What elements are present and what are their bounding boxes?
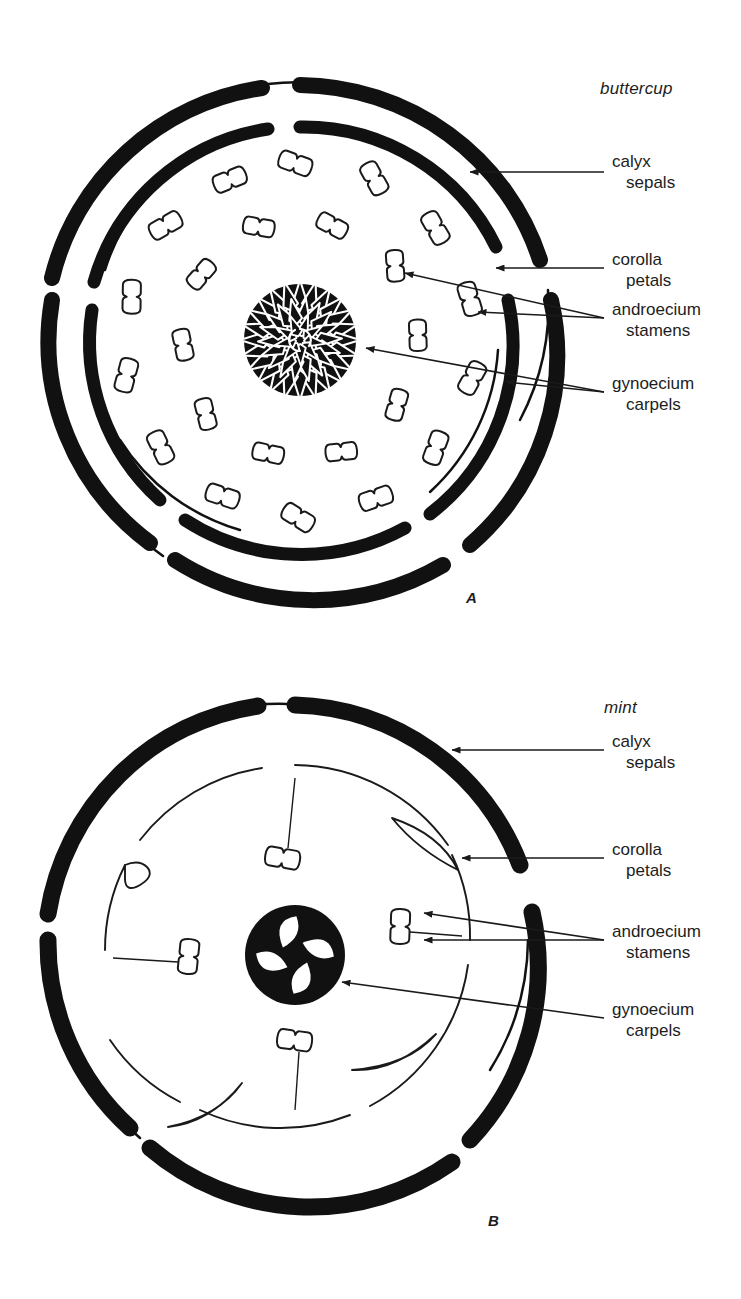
callout-term: androecium bbox=[612, 922, 701, 943]
leader-gynoecium-buttercup bbox=[366, 348, 604, 392]
leader-gynoecium-mint bbox=[342, 982, 604, 1018]
callout-term: androecium bbox=[612, 300, 701, 321]
callout-androecium-buttercup: androecium stamens bbox=[612, 300, 701, 341]
callout-term: corolla bbox=[612, 840, 671, 861]
callout-sub: carpels bbox=[612, 395, 694, 416]
gynoecium-buttercup bbox=[240, 280, 360, 400]
callout-corolla-mint: corolla petals bbox=[612, 840, 671, 881]
callout-sub: sepals bbox=[612, 753, 675, 774]
gynoecium-mint bbox=[245, 905, 345, 1005]
callout-sub: carpels bbox=[612, 1021, 694, 1042]
callout-androecium-mint: androecium stamens bbox=[612, 922, 701, 963]
callout-calyx-mint: calyx sepals bbox=[612, 732, 675, 773]
callout-sub: petals bbox=[612, 271, 671, 292]
callout-term: gynoecium bbox=[612, 374, 694, 395]
callout-sub: sepals bbox=[612, 173, 675, 194]
callout-gynoecium-mint: gynoecium carpels bbox=[612, 1000, 694, 1041]
callout-sub: stamens bbox=[612, 943, 701, 964]
callout-calyx-buttercup: calyx sepals bbox=[612, 152, 675, 193]
callout-sub: stamens bbox=[612, 321, 701, 342]
leader-lines-buttercup bbox=[366, 172, 604, 392]
panel-letter-a: A bbox=[466, 589, 477, 606]
callout-term: corolla bbox=[612, 250, 671, 271]
panel-mint: mint B calyx sepals corolla petals andro… bbox=[0, 640, 741, 1299]
leader-androecium-b2 bbox=[478, 312, 604, 318]
leader-androecium-mint bbox=[424, 913, 604, 940]
species-name-buttercup: buttercup bbox=[600, 79, 673, 99]
callout-gynoecium-buttercup: gynoecium carpels bbox=[612, 374, 694, 415]
species-name-mint: mint bbox=[604, 698, 637, 718]
callout-term: calyx bbox=[612, 152, 675, 173]
callout-term: gynoecium bbox=[612, 1000, 694, 1021]
callout-corolla-buttercup: corolla petals bbox=[612, 250, 671, 291]
panel-letter-b: B bbox=[488, 1212, 499, 1229]
panel-buttercup: buttercup A calyx sepals corolla petals … bbox=[0, 0, 741, 640]
callout-term: calyx bbox=[612, 732, 675, 753]
callout-sub: petals bbox=[612, 861, 671, 882]
floral-diagram-figure: buttercup A calyx sepals corolla petals … bbox=[0, 0, 741, 1299]
